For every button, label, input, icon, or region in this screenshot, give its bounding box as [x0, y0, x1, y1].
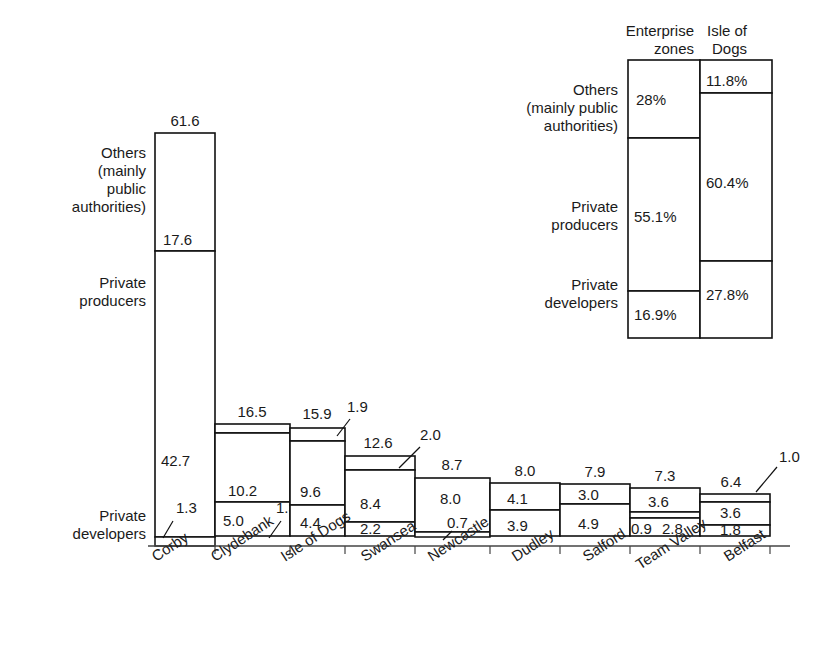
inset-iod-value-developers: 27.8% [706, 286, 749, 303]
inset-header-enterprise-zones-line2: zones [654, 40, 694, 57]
bar-clydebank-segment-others [215, 424, 290, 433]
inset-row-label-others-line3: authorities) [544, 117, 618, 134]
bar-isle-of-dogs-total-label: 15.9 [302, 405, 331, 422]
bar-group-corby: 61.6 17.6 42.7 1.3 [155, 112, 215, 546]
inset-row-label-others-line1: Others [573, 81, 618, 98]
bar-isle-of-dogs-segment-others [290, 428, 345, 441]
bar-corby-value-others: 17.6 [163, 231, 192, 248]
bar-belfast-segment-others [700, 494, 770, 502]
bar-team-valley-value-producers: 3.6 [648, 493, 669, 510]
bar-swansea-value-producers: 8.4 [360, 495, 381, 512]
bar-salford-value-developers: 4.9 [578, 515, 599, 532]
bar-isle-of-dogs-value-others: 1.9 [347, 398, 368, 415]
row-label-developers-line1: Private [99, 507, 146, 524]
bar-belfast-value-developers: 1.8 [720, 521, 741, 538]
inset-row-label-others-line2: (mainly public [526, 99, 618, 116]
inset-ez-value-producers: 55.1% [634, 208, 677, 225]
bar-team-valley-value-others: 0.9 [631, 520, 652, 537]
row-label-producers-line1: Private [99, 274, 146, 291]
inset-row-label-developers-line2: developers [545, 294, 618, 311]
row-label-others-line3: public [107, 180, 147, 197]
inset-iod-value-producers: 60.4% [706, 174, 749, 191]
bar-swansea-value-developers: 2.2 [360, 520, 381, 537]
row-label-producers-line2: producers [79, 292, 146, 309]
inset-row-label-producers-line1: Private [571, 198, 618, 215]
row-label-developers-line2: developers [73, 525, 146, 542]
bar-belfast-value-others: 1.0 [779, 448, 800, 465]
inset-header-isle-of-dogs-line2: Dogs [712, 40, 747, 57]
bar-dudley-value-producers: 4.1 [507, 490, 528, 507]
inset-iod-value-others: 11.8% [706, 72, 747, 89]
bar-swansea-value-others: 2.0 [420, 426, 441, 443]
bar-swansea-total-label: 12.6 [363, 434, 392, 451]
inset-row-label-producers-line2: producers [551, 216, 618, 233]
chart-canvas: Enterprise zones Isle of Dogs Others (ma… [0, 0, 830, 649]
bar-corby-value-producers: 42.7 [161, 452, 190, 469]
bar-salford-value-producers: 3.0 [578, 486, 599, 503]
bar-salford-total-label: 7.9 [585, 463, 606, 480]
row-label-others-line1: Others [101, 144, 146, 161]
inset-ez-value-others: 28% [636, 91, 666, 108]
inset-header-enterprise-zones-line1: Enterprise [626, 22, 694, 39]
row-label-others-line4: authorities) [72, 198, 146, 215]
bar-dudley-total-label: 8.0 [515, 462, 536, 479]
row-label-others-line2: (mainly [98, 162, 147, 179]
bar-team-valley-segment-others [630, 512, 700, 518]
chart-figure: Enterprise zones Isle of Dogs Others (ma… [0, 0, 830, 649]
bar-isle-of-dogs-value-producers: 9.6 [300, 483, 321, 500]
bar-team-valley-total-label: 7.3 [655, 467, 676, 484]
bar-clydebank-value-developers: 5.0 [223, 512, 244, 529]
bar-corby-segment-producers [155, 251, 215, 537]
bar-clydebank-total-label: 16.5 [237, 403, 266, 420]
inset-ez-value-developers: 16.9% [634, 306, 677, 323]
bar-clydebank-value-producers: 10.2 [228, 482, 257, 499]
bar-corby-value-developers: 1.3 [176, 499, 197, 516]
bar-belfast-value-producers: 3.6 [720, 504, 741, 521]
bar-newcastle-value-producers: 8.0 [440, 490, 461, 507]
bar-belfast-total-label: 6.4 [721, 473, 742, 490]
bar-dudley-value-developers: 3.9 [507, 517, 528, 534]
bar-corby-total-label: 61.6 [170, 112, 199, 129]
inset-row-label-developers-line1: Private [571, 276, 618, 293]
bar-newcastle-total-label: 8.7 [442, 456, 463, 473]
inset-header-isle-of-dogs-line1: Isle of [707, 22, 748, 39]
